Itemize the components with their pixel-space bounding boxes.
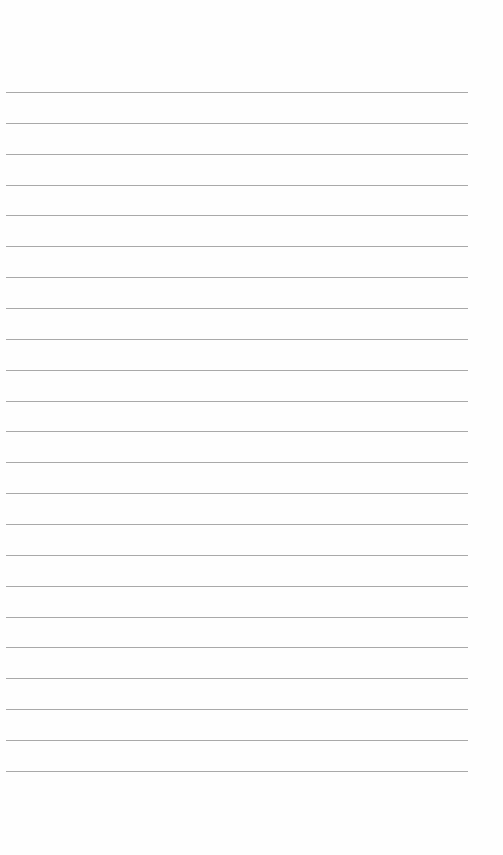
ruled-line <box>6 401 468 402</box>
ruled-line <box>6 308 468 309</box>
ruled-line <box>6 771 468 772</box>
ruled-line <box>6 123 468 124</box>
ruled-line <box>6 586 468 587</box>
ruled-line <box>6 92 468 93</box>
ruled-line <box>6 647 468 648</box>
ruled-line <box>6 524 468 525</box>
ruled-line <box>6 370 468 371</box>
ruled-line <box>6 678 468 679</box>
ruled-line <box>6 277 468 278</box>
ruled-line <box>6 709 468 710</box>
ruled-line <box>6 555 468 556</box>
ruled-line <box>6 462 468 463</box>
ruled-line <box>6 431 468 432</box>
ruled-line <box>6 246 468 247</box>
lined-paper-page <box>0 0 503 855</box>
ruled-line <box>6 154 468 155</box>
ruled-line <box>6 215 468 216</box>
ruled-line <box>6 493 468 494</box>
ruled-line <box>6 617 468 618</box>
ruled-line <box>6 339 468 340</box>
ruled-line <box>6 185 468 186</box>
ruled-line <box>6 740 468 741</box>
